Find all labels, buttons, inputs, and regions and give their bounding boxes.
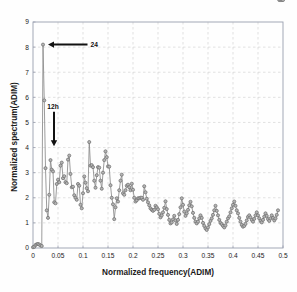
data-point	[116, 200, 119, 203]
data-point	[146, 201, 149, 204]
data-point	[244, 222, 247, 225]
data-point	[206, 226, 209, 229]
data-point	[166, 213, 169, 216]
data-point	[83, 175, 86, 178]
data-point	[85, 187, 88, 190]
data-point	[185, 212, 188, 215]
y-tick-label: 7	[25, 69, 29, 76]
data-point	[113, 218, 116, 221]
data-point	[128, 186, 131, 189]
data-point	[86, 190, 89, 193]
y-tick-label: 3	[25, 169, 29, 176]
data-point	[179, 206, 182, 209]
data-point	[144, 191, 147, 194]
data-point	[178, 213, 181, 216]
data-point	[201, 221, 204, 224]
data-point	[173, 214, 176, 217]
data-point	[101, 171, 104, 174]
data-point	[210, 217, 213, 220]
data-point	[65, 182, 68, 185]
data-point	[49, 159, 52, 162]
data-point	[58, 181, 61, 184]
y-tick-labels: 0123456789	[25, 18, 35, 251]
data-point	[40, 244, 43, 247]
data-point	[211, 213, 214, 216]
data-point	[88, 140, 91, 143]
data-point	[108, 165, 111, 168]
data-point	[120, 173, 123, 176]
data-point	[225, 220, 228, 223]
data-point	[235, 209, 238, 212]
data-point	[255, 211, 258, 214]
y-tick-label: 9	[25, 18, 29, 25]
data-point	[168, 218, 171, 221]
data-point	[156, 208, 159, 211]
data-point	[218, 218, 221, 221]
data-point	[224, 224, 227, 227]
data-point	[95, 174, 98, 177]
data-point	[44, 167, 47, 170]
data-point	[43, 99, 46, 102]
data-point	[99, 179, 102, 182]
data-point	[256, 214, 259, 217]
data-point	[105, 156, 108, 159]
x-tick-label: 0.05	[52, 252, 65, 259]
data-point	[115, 197, 118, 200]
data-point	[114, 206, 117, 209]
y-tick-label: 5	[25, 119, 29, 126]
data-point	[100, 187, 103, 190]
annotation-label-24: 24	[91, 41, 99, 48]
x-tick-label: 0.1	[78, 252, 87, 259]
data-point	[208, 223, 211, 226]
data-point	[124, 189, 127, 192]
data-point	[234, 204, 237, 207]
y-tick-label: 8	[25, 44, 29, 51]
data-point	[230, 207, 233, 210]
data-point	[275, 213, 278, 216]
data-point	[123, 193, 126, 196]
data-point	[66, 158, 69, 161]
data-point	[193, 216, 196, 219]
chart-annotations: 2412h	[47, 41, 98, 146]
data-point	[130, 182, 133, 185]
data-point	[48, 193, 51, 196]
data-point	[238, 216, 241, 219]
data-point	[176, 218, 179, 221]
data-point	[80, 207, 83, 210]
data-point	[165, 208, 168, 211]
data-point	[118, 189, 121, 192]
annotation-label-12h: 12h	[47, 103, 58, 110]
data-point	[51, 170, 54, 173]
data-point	[133, 196, 136, 199]
x-tick-labels: 00.050.10.150.20.250.30.350.40.450.5	[31, 246, 288, 260]
data-point	[93, 179, 96, 182]
data-point	[265, 214, 268, 217]
data-point	[281, 0, 284, 2]
data-point	[60, 161, 63, 164]
data-point	[41, 43, 44, 46]
data-point	[119, 179, 122, 182]
data-point	[143, 185, 146, 188]
data-point	[78, 184, 81, 187]
x-tick-label: 0.4	[228, 252, 237, 259]
data-point	[69, 172, 72, 175]
x-tick-label: 0	[31, 252, 35, 259]
x-tick-label: 0.25	[152, 252, 165, 259]
y-axis-title: Normalized spectrum(ADIM)	[10, 82, 19, 192]
data-point	[196, 220, 199, 223]
x-tick-label: 0.35	[202, 252, 215, 259]
x-tick-label: 0.45	[252, 252, 265, 259]
data-point	[214, 204, 217, 207]
data-point	[84, 181, 87, 184]
data-point	[103, 159, 106, 162]
data-point	[216, 214, 219, 217]
data-point	[261, 218, 264, 221]
data-point	[109, 184, 112, 187]
data-point	[245, 219, 248, 222]
data-point	[215, 209, 218, 212]
data-point	[141, 198, 144, 201]
data-point	[164, 200, 167, 203]
data-point	[229, 211, 232, 214]
data-point	[59, 164, 62, 167]
data-point	[276, 209, 279, 212]
